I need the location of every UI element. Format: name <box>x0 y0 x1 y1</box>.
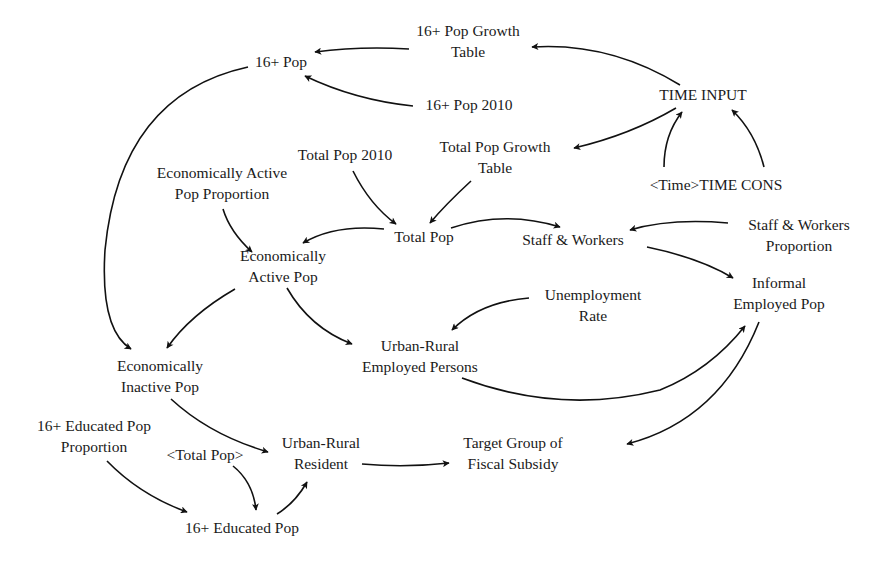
edge-urban-rural-resident-to-target-group <box>362 463 449 466</box>
node-label: Rate <box>545 305 641 326</box>
node-label: Proportion <box>37 436 151 457</box>
node-label: Urban-Rural <box>362 335 478 356</box>
node-staff-workers: Staff & Workers <box>522 229 624 250</box>
node-16pop-2010: 16+ Pop 2010 <box>425 94 512 115</box>
edge-16pop-to-econ-inactive-pop <box>104 67 248 349</box>
node-urban-rural-employed-persons: Urban-Rural Employed Persons <box>362 335 478 377</box>
edge-time-cons-to-time-input-right <box>732 110 764 167</box>
edge-16pop-growth-table-to-16pop <box>315 48 409 52</box>
node-educated-pop: 16+ Educated Pop <box>185 517 299 538</box>
node-time-cons: <Time>TIME CONS <box>650 174 783 195</box>
edge-unemployment-to-urban-rural-employed <box>452 298 529 330</box>
edge-total-pop-shadow-to-educated-pop <box>233 466 256 510</box>
node-label: <Total Pop> <box>166 444 243 465</box>
node-label: Economically <box>240 245 326 266</box>
node-target-group-fiscal-subsidy: Target Group of Fiscal Subsidy <box>463 432 562 474</box>
edge-total-pop-to-econ-active-pop <box>303 228 384 243</box>
node-label: Table <box>440 157 551 178</box>
node-informal-employed-pop: Informal Employed Pop <box>733 272 825 314</box>
edge-econ-active-to-econ-inactive <box>167 289 235 348</box>
node-label: Pop Proportion <box>157 183 287 204</box>
node-label: Inactive Pop <box>117 376 203 397</box>
node-econ-inactive-pop: Economically Inactive Pop <box>117 355 203 397</box>
node-educated-pop-proportion: 16+ Educated Pop Proportion <box>37 415 151 457</box>
edge-time-cons-to-time-input-left <box>664 112 682 167</box>
edge-time-input-to-16pop-growth-table <box>532 46 680 85</box>
edge-staff-workers-to-informal-employed-pop <box>647 247 733 278</box>
node-staff-workers-proportion: Staff & Workers Proportion <box>748 214 850 256</box>
causal-loop-diagram: 16+ Pop Growth Table 16+ Pop 16+ Pop 201… <box>0 0 875 562</box>
node-label: Staff & Workers <box>748 214 850 235</box>
node-label: Target Group of <box>463 432 562 453</box>
node-label: Unemployment <box>545 284 641 305</box>
node-econ-active-pop-proportion: Economically Active Pop Proportion <box>157 162 287 204</box>
node-label: Economically <box>117 355 203 376</box>
node-label: 16+ Pop Growth <box>416 20 519 41</box>
node-urban-rural-resident: Urban-Rural Resident <box>282 432 360 474</box>
node-label: Total Pop 2010 <box>298 144 393 165</box>
node-label: TIME INPUT <box>659 84 746 105</box>
edge-time-input-to-total-pop-growth-table <box>574 108 676 148</box>
edge-16pop-2010-to-16pop <box>305 76 413 106</box>
node-label: Proportion <box>748 235 850 256</box>
edge-educated-pop-to-urban-rural-resident <box>277 482 307 514</box>
edge-econ-active-to-urban-rural-employed <box>287 288 352 344</box>
node-total-pop-2010: Total Pop 2010 <box>298 144 393 165</box>
edge-informal-employed-to-target-group <box>627 322 759 444</box>
edge-total-pop-to-staff-workers <box>451 219 560 228</box>
node-econ-active-pop: Economically Active Pop <box>240 245 326 287</box>
node-unemployment-rate: Unemployment Rate <box>545 284 641 326</box>
node-time-input: TIME INPUT <box>659 84 746 105</box>
node-label: 16+ Educated Pop <box>37 415 151 436</box>
node-label: 16+ Pop <box>255 51 307 72</box>
node-total-pop: Total Pop <box>394 226 454 247</box>
node-label: Employed Persons <box>362 356 478 377</box>
node-label: 16+ Pop 2010 <box>425 94 512 115</box>
node-label: Informal <box>733 272 825 293</box>
node-label: <Time>TIME CONS <box>650 174 783 195</box>
node-label: Resident <box>282 453 360 474</box>
node-label: 16+ Educated Pop <box>185 517 299 538</box>
node-label: Economically Active <box>157 162 287 183</box>
node-label: Employed Pop <box>733 293 825 314</box>
node-label: Active Pop <box>240 266 326 287</box>
edge-total-pop-growth-table-to-total-pop <box>430 181 471 223</box>
node-label: Table <box>416 41 519 62</box>
edge-staff-workers-proportion-to-staff-workers <box>630 222 728 230</box>
node-label: Fiscal Subsidy <box>463 453 562 474</box>
node-label: Total Pop <box>394 226 454 247</box>
node-16pop-growth-table: 16+ Pop Growth Table <box>416 20 519 62</box>
node-total-pop-growth-table: Total Pop Growth Table <box>440 136 551 178</box>
edge-urban-rural-employed-to-informal-employed <box>462 326 745 400</box>
edge-total-pop-2010-to-total-pop <box>353 171 396 224</box>
node-16pop: 16+ Pop <box>255 51 307 72</box>
node-label: Staff & Workers <box>522 229 624 250</box>
node-total-pop-shadow: <Total Pop> <box>166 444 243 465</box>
node-label: Total Pop Growth <box>440 136 551 157</box>
edge-educated-proportion-to-educated-pop <box>107 461 187 512</box>
node-label: Urban-Rural <box>282 432 360 453</box>
